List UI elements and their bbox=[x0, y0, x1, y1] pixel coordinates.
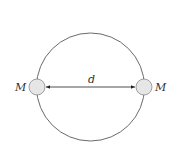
binary-star-diagram: M M d bbox=[0, 0, 177, 143]
separation-label: d bbox=[88, 73, 95, 86]
left-mass bbox=[29, 79, 45, 95]
right-mass bbox=[136, 79, 152, 95]
right-mass-label: M bbox=[154, 81, 167, 94]
left-mass-label: M bbox=[14, 81, 27, 94]
